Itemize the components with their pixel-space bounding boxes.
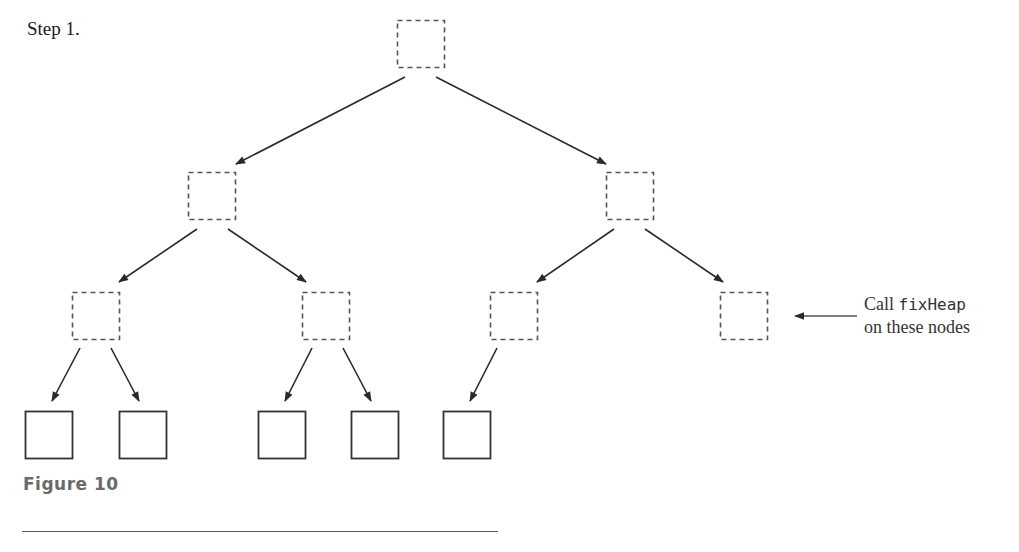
edge-arrow-n3-n6 — [537, 229, 614, 282]
edge-arrow-n3-n7 — [645, 229, 723, 282]
edge-arrow-n5-n11 — [343, 348, 371, 401]
tree-node-n11-solid — [352, 412, 399, 459]
tree-node-n9-solid — [120, 412, 167, 459]
edge-arrow-n6-n12 — [470, 348, 497, 401]
edge-arrow-n1-n3 — [436, 77, 606, 164]
annotation-line-1: Call fixHeap — [864, 293, 970, 316]
tree-node-n5-dashed — [303, 293, 350, 340]
tree-node-n10-solid — [259, 412, 306, 459]
annotation-prefix: Call — [864, 294, 899, 314]
tree-node-n4-dashed — [73, 293, 120, 340]
annotation-line-2: on these nodes — [864, 316, 970, 338]
caption-rule — [22, 531, 498, 532]
tree-node-n6-dashed — [491, 293, 538, 340]
heap-tree-diagram — [0, 0, 1019, 552]
annotation-label: Call fixHeap on these nodes — [864, 293, 970, 338]
edge-arrow-n4-n9 — [111, 348, 139, 401]
edge-arrow-n2-n4 — [119, 229, 197, 282]
tree-nodes — [26, 21, 768, 459]
tree-edges — [52, 77, 723, 401]
tree-node-n1-dashed — [398, 21, 445, 68]
tree-node-n7-dashed — [721, 293, 768, 340]
figure-caption: Figure 10 — [23, 474, 119, 494]
tree-node-n2-dashed — [189, 173, 236, 220]
edge-arrow-n1-n2 — [236, 77, 405, 164]
fixheap-code: fixHeap — [899, 295, 966, 314]
tree-node-n8-solid — [26, 412, 73, 459]
edge-arrow-n4-n8 — [52, 348, 80, 401]
edge-arrow-n5-n10 — [285, 348, 312, 401]
edge-arrow-n2-n5 — [228, 229, 306, 282]
tree-node-n3-dashed — [607, 173, 654, 220]
tree-node-n12-solid — [444, 412, 491, 459]
